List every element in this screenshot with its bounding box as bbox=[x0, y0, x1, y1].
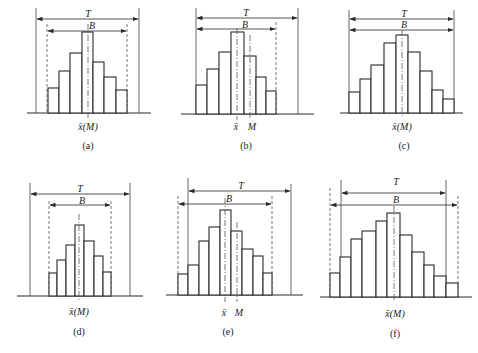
panel-caption: (f) bbox=[390, 328, 400, 340]
mean-label: x̄ bbox=[221, 307, 227, 318]
tolerance-label: T bbox=[401, 8, 408, 19]
spread-label: B bbox=[401, 19, 407, 30]
median-label: M bbox=[247, 121, 257, 132]
panel-caption: (b) bbox=[240, 140, 252, 152]
panel-caption: (e) bbox=[222, 326, 233, 338]
panel-b: T B x̄ M (b) bbox=[181, 7, 314, 152]
axis-label: x̄(M) bbox=[384, 308, 405, 320]
spread-label: B bbox=[79, 195, 85, 206]
tolerance-label: T bbox=[85, 8, 92, 19]
panel-f: T B x̄(M) (f) bbox=[320, 176, 472, 340]
histogram-bars bbox=[49, 225, 111, 296]
tolerance-label: T bbox=[393, 176, 400, 187]
spread-label: B bbox=[393, 194, 399, 205]
panel-a: T B x̄(M) (a) bbox=[27, 8, 151, 152]
histogram-bars bbox=[196, 32, 276, 114]
spread-label: B bbox=[89, 20, 95, 31]
histogram-bars bbox=[48, 32, 127, 113]
panel-e: T B x̄ M (e) bbox=[166, 178, 303, 338]
median-label: M bbox=[234, 307, 244, 318]
histogram-bars bbox=[349, 35, 454, 113]
tolerance-label: T bbox=[238, 180, 245, 191]
panel-caption: (c) bbox=[398, 140, 409, 152]
mean-label: x̄ bbox=[233, 121, 239, 132]
axis-label: x̄(M) bbox=[77, 121, 98, 133]
tolerance-label: T bbox=[77, 183, 84, 194]
panel-caption: (a) bbox=[82, 140, 93, 152]
spread-label: B bbox=[242, 19, 248, 30]
axis-label: x̄(M) bbox=[391, 121, 412, 133]
panel-d: T B x̄(M) (d) bbox=[17, 183, 143, 338]
process-capability-figure: T B x̄(M) (a) T B x̄ M (b) bbox=[0, 0, 478, 353]
panel-c: T B x̄(M) (c) bbox=[340, 8, 463, 152]
spread-label: B bbox=[226, 193, 232, 204]
tolerance-label: T bbox=[243, 7, 250, 18]
panel-caption: (d) bbox=[73, 326, 85, 338]
axis-label: x̄(M) bbox=[68, 306, 89, 318]
